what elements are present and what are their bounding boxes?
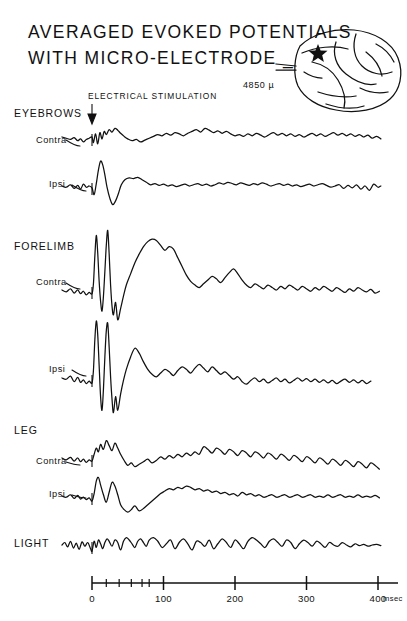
trace-forelimb-ipsi xyxy=(62,321,371,413)
group-label-forelimb: FORELIMB xyxy=(14,240,75,252)
electrode-depth-label: 4850 µ xyxy=(243,80,274,90)
lead-leg-contra xyxy=(66,462,80,465)
stimulus-arrow-icon xyxy=(88,104,96,124)
trace-eyebrows-contra xyxy=(62,128,381,144)
group-label-leg: LEG xyxy=(14,424,38,436)
figure-title-line2: WITH MICRO-ELECTRODE _ xyxy=(28,48,294,69)
axis-tick-label: 0 xyxy=(89,593,95,604)
evoked-potentials-figure: AVERAGED EVOKED POTENTIALS WITH MICRO-EL… xyxy=(0,0,407,621)
group-label-light: LIGHT xyxy=(14,537,49,549)
waveform-traces xyxy=(62,128,381,554)
axis-tick-label: 300 xyxy=(298,593,315,604)
trace-light xyxy=(62,538,381,552)
stimulus-label: ELECTRICAL STIMULATION xyxy=(88,91,217,101)
side-label-forelimb-ipsi: Ipsi xyxy=(49,364,65,374)
axis-tick-label: 100 xyxy=(155,593,172,604)
side-label-eyebrows-ipsi: Ipsi xyxy=(49,179,65,189)
group-label-eyebrows: EYEBROWS xyxy=(14,107,82,119)
lead-forelimb-contra xyxy=(66,283,80,289)
trace-leg-ipsi xyxy=(62,477,379,512)
trace-eyebrows-ipsi xyxy=(62,161,381,205)
lead-leg-ipsi xyxy=(72,495,86,498)
figure-title-line1: AVERAGED EVOKED POTENTIALS xyxy=(28,22,352,42)
side-label-leg-ipsi: Ipsi xyxy=(49,489,65,499)
time-axis: 0100200300400 xyxy=(89,576,398,604)
axis-tick-label: 200 xyxy=(226,593,243,604)
trace-leg-contra xyxy=(62,441,379,470)
side-label-forelimb-contra: Contra xyxy=(36,277,67,287)
trace-forelimb-contra xyxy=(62,230,379,320)
trace-lead-lines xyxy=(66,140,86,498)
lead-forelimb-ipsi xyxy=(72,370,86,376)
axis-unit-label: msec xyxy=(383,594,403,603)
